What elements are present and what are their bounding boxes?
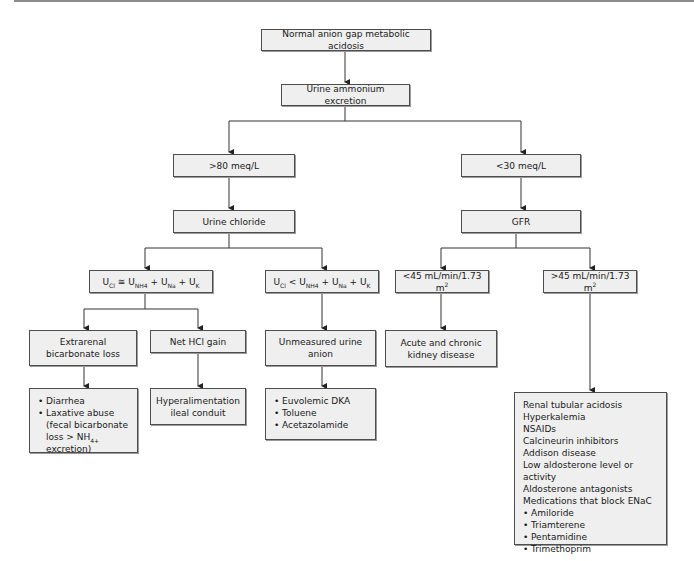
node-gfr-high-causes: Renal tubular acidosis Hyperkalemia NSAI… — [514, 392, 667, 545]
list-item: Addison disease — [523, 447, 658, 459]
node-net-hcl-causes: Hyperalimentation ileal conduit — [150, 388, 246, 425]
node-ucl-less: UCl < UNH4 + UNa + UK — [265, 270, 379, 293]
node-urine-chloride-label: Urine chloride — [203, 216, 266, 228]
list-item: Medications that block ENaC — [523, 495, 658, 507]
node-unmeasured: Unmeasured urine anion — [265, 330, 376, 366]
node-root: Normal anion gap metabolic acidosis — [261, 29, 431, 51]
list-item: Toluene — [274, 407, 350, 419]
node-low-ammonium: <30 meq/L — [461, 154, 581, 177]
node-gfr-high-label: >45 mL/min/1.73 m2 — [548, 270, 632, 294]
list-item: NSAIDs — [523, 423, 658, 435]
node-gfr-low-label: <45 mL/min/1.73 m2 — [400, 270, 484, 294]
node-gfr-low: <45 mL/min/1.73 m2 — [395, 270, 489, 293]
node-urine-chloride: Urine chloride — [173, 210, 295, 233]
node-urine-ammonium: Urine ammonium excretion — [281, 84, 410, 106]
node-extrarenal-causes: Diarrhea Laxative abuse (fecal bicarbona… — [29, 388, 138, 453]
list-item: Euvolemic DKA — [274, 395, 350, 407]
node-ckd: Acute and chronic kidney disease — [385, 330, 497, 367]
node-ucl-equal: UCl ≅ UNH4 + UNa + UK — [89, 270, 213, 293]
list-item: Pentamidine — [523, 531, 658, 543]
node-gfr-label: GFR — [512, 216, 530, 228]
node-net-hcl: Net HCl gain — [150, 330, 246, 353]
list-item: Trimethoprim — [523, 543, 658, 555]
list-item: Laxative abuse (fecal bicarbonate loss >… — [38, 407, 129, 455]
node-high-ammonium-label: >80 meq/L — [209, 160, 259, 172]
unmeasured-causes-list: Euvolemic DKA Toluene Acetazolamide — [274, 395, 350, 431]
node-extrarenal: Extrarenal bicarbonate loss — [29, 330, 137, 366]
node-unmeasured-causes: Euvolemic DKA Toluene Acetazolamide — [265, 388, 376, 440]
list-item: Acetazolamide — [274, 419, 350, 431]
node-gfr: GFR — [461, 210, 581, 233]
node-urine-ammonium-label: Urine ammonium excretion — [286, 83, 405, 107]
list-item: Renal tubular acidosis — [523, 399, 658, 411]
gfr-high-causes-list: Renal tubular acidosis Hyperkalemia NSAI… — [523, 399, 658, 555]
list-item: Amiloride — [523, 507, 658, 519]
extrarenal-causes-list: Diarrhea Laxative abuse (fecal bicarbona… — [38, 395, 129, 455]
node-root-label: Normal anion gap metabolic acidosis — [266, 28, 426, 52]
node-low-ammonium-label: <30 meq/L — [496, 160, 546, 172]
list-item: Triamterene — [523, 519, 658, 531]
list-item: Low aldosterone level or activity — [523, 459, 658, 483]
node-net-hcl-causes-label: Hyperalimentation ileal conduit — [155, 395, 241, 419]
node-extrarenal-label: Extrarenal bicarbonate loss — [34, 336, 132, 360]
node-unmeasured-label: Unmeasured urine anion — [270, 336, 371, 360]
list-item: Calcineurin inhibitors — [523, 435, 658, 447]
node-gfr-high: >45 mL/min/1.73 m2 — [543, 270, 637, 293]
node-net-hcl-label: Net HCl gain — [170, 336, 227, 348]
node-ucl-equal-label: UCl ≅ UNH4 + UNa + UK — [103, 276, 200, 288]
list-item: Diarrhea — [38, 395, 129, 407]
node-high-ammonium: >80 meq/L — [173, 154, 295, 177]
list-item: Aldosterone antagonists — [523, 483, 658, 495]
list-item: Hyperkalemia — [523, 411, 658, 423]
node-ucl-less-label: UCl < UNH4 + UNa + UK — [274, 276, 371, 288]
node-ckd-label: Acute and chronic kidney disease — [390, 337, 492, 361]
